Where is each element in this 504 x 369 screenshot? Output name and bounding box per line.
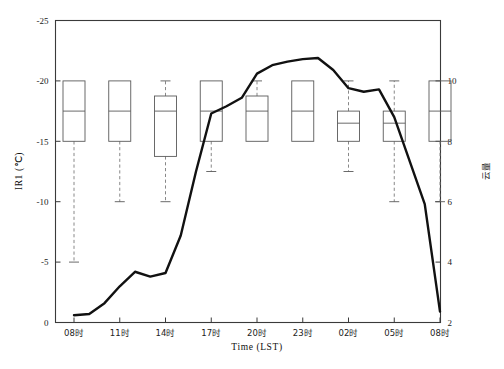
y-axis-left: -25-20-15-10-50	[37, 16, 61, 328]
x-tick-label: 05时	[384, 328, 404, 338]
y2-tick-label: 4	[448, 257, 453, 267]
figure-container: -25-20-15-10-50 108642 08时11时14时17时20时23…	[0, 0, 504, 369]
boxplot	[63, 81, 85, 262]
y-tick-label: -10	[37, 197, 49, 207]
boxplot	[292, 81, 314, 141]
x-tick-label: 17时	[201, 328, 221, 338]
x-tick-label: 08时	[430, 328, 450, 338]
boxplot	[246, 81, 268, 141]
boxplot	[155, 81, 177, 202]
x-tick-label: 08时	[64, 328, 84, 338]
y-tick-label: -15	[37, 137, 49, 147]
y-axis-left-title: IR1 (℃)	[14, 152, 25, 190]
x-tick-label: 11时	[110, 328, 130, 338]
y-tick-label: -5	[41, 257, 49, 267]
y2-tick-label: 2	[448, 318, 453, 328]
plot-frame	[56, 21, 441, 323]
x-axis-title: Time (LST)	[231, 342, 282, 353]
y2-tick-label: 6	[448, 197, 453, 207]
ir1-line-series	[74, 58, 440, 315]
boxplot	[109, 81, 131, 202]
boxplot-group	[63, 81, 451, 262]
boxplot	[338, 81, 360, 172]
y-tick-label: -25	[37, 16, 49, 26]
x-tick-label: 23时	[293, 328, 313, 338]
x-axis: 08时11时14时17时20时23时02时05时08时	[64, 318, 450, 338]
x-tick-label: 02时	[339, 328, 359, 338]
y-tick-label: -20	[37, 76, 49, 86]
boxplot	[200, 81, 222, 172]
x-tick-label: 14时	[156, 328, 176, 338]
chart-canvas: -25-20-15-10-50 108642 08时11时14时17时20时23…	[0, 0, 504, 369]
y-axis-right-title: 云量	[481, 162, 491, 180]
y-tick-label: 0	[44, 318, 49, 328]
x-tick-label: 20时	[247, 328, 267, 338]
